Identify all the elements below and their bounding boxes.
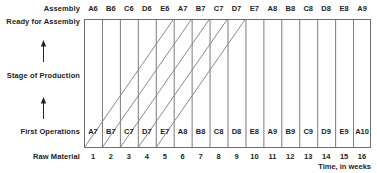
stage-label-raw-material: Raw Material	[33, 152, 80, 161]
assembly-output-label: D7	[228, 4, 246, 13]
up-arrow-icon	[40, 97, 47, 119]
stage-label-first-operations: First Operations	[20, 127, 80, 136]
first-operations-label: C9	[299, 127, 317, 136]
first-operations-label: E9	[335, 127, 353, 136]
assembly-output-label: A6	[84, 4, 102, 13]
assembly-output-label: E7	[245, 4, 263, 13]
x-axis-tick-label: 11	[263, 152, 281, 161]
assembly-output-label: C7	[210, 4, 228, 13]
assembly-output-label: B6	[102, 4, 120, 13]
x-axis-tick-label: 6	[174, 152, 192, 161]
x-axis-tick-label: 8	[210, 152, 228, 161]
x-axis-tick-label: 3	[120, 152, 138, 161]
x-axis-tick-label: 10	[245, 152, 263, 161]
stage-label-stage-of-production: Stage of Production	[7, 71, 80, 80]
assembly-output-label: E6	[156, 4, 174, 13]
first-operations-label: B7	[102, 127, 120, 136]
x-axis-tick-label: 16	[353, 152, 371, 161]
x-axis-tick-label: 2	[102, 152, 120, 161]
assembly-output-label: A9	[353, 4, 371, 13]
x-axis-title: Time, in weeks	[318, 162, 371, 171]
first-operations-label: B8	[192, 127, 210, 136]
assembly-output-label: A8	[263, 4, 281, 13]
up-arrow-icon	[40, 40, 47, 62]
first-operations-label: A9	[263, 127, 281, 136]
x-axis-tick-label: 5	[156, 152, 174, 161]
x-axis-tick-label: 14	[317, 152, 335, 161]
assembly-output-label: D8	[317, 4, 335, 13]
first-operations-label: A10	[353, 127, 371, 136]
assembly-output-label: B8	[281, 4, 299, 13]
first-operations-label: E7	[156, 127, 174, 136]
first-operations-label: C8	[210, 127, 228, 136]
x-axis-tick-label: 15	[335, 152, 353, 161]
assembly-output-label: C8	[299, 4, 317, 13]
assembly-output-label: B7	[192, 4, 210, 13]
stage-label-ready-for-assembly: Ready for Assembly	[6, 17, 80, 26]
first-operations-label: D8	[228, 127, 246, 136]
x-axis-tick-label: 9	[228, 152, 246, 161]
first-operations-label: D9	[317, 127, 335, 136]
first-operations-label: B9	[281, 127, 299, 136]
x-axis-tick-label: 4	[138, 152, 156, 161]
production-flow-diagram: Assembly Ready for Assembly Stage of Pro…	[0, 0, 377, 173]
x-axis-tick-label: 1	[84, 152, 102, 161]
assembly-output-label: A7	[174, 4, 192, 13]
assembly-output-label: D6	[138, 4, 156, 13]
first-operations-label: D7	[138, 127, 156, 136]
first-operations-label: C7	[120, 127, 138, 136]
first-operations-label: A8	[174, 127, 192, 136]
x-axis-tick-label: 7	[192, 152, 210, 161]
assembly-output-label: C6	[120, 4, 138, 13]
first-operations-label: E8	[245, 127, 263, 136]
first-operations-label: A7	[84, 127, 102, 136]
stage-label-assembly: Assembly	[44, 4, 80, 13]
assembly-output-label: E8	[335, 4, 353, 13]
x-axis-tick-label: 12	[281, 152, 299, 161]
x-axis-tick-label: 13	[299, 152, 317, 161]
